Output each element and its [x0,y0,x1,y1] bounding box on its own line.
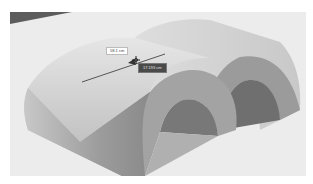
3d-viewport[interactable]: 58.1 cm 17.193 cm [10,12,306,176]
offset-dimension-tooltip: 17.193 cm [138,63,167,73]
model-scene [10,12,306,176]
move-cursor-icon [131,55,141,65]
length-dimension-label: 58.1 cm [106,47,128,55]
